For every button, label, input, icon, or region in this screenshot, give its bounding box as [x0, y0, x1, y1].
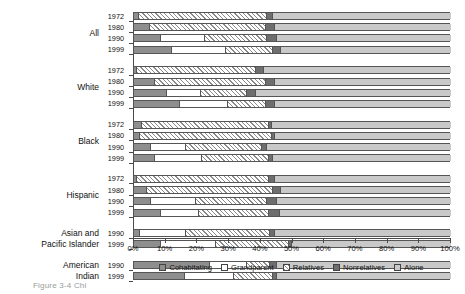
legend-item-relatives: Relatives: [283, 263, 324, 272]
y-axis-group-label: White: [0, 82, 99, 93]
bar-segment-cohabitating: [134, 24, 150, 30]
y-axis-tick: [129, 140, 133, 141]
x-axis-tick-label: 70%: [338, 244, 372, 253]
group-label-line: Indian: [76, 271, 99, 281]
y-axis-year-label: 1999: [102, 273, 124, 281]
legend-label: Alone: [404, 263, 423, 272]
y-axis-tick: [129, 21, 133, 22]
y-axis-group-label: Asian andPacific Islander: [0, 228, 99, 249]
legend-swatch-relatives: [283, 264, 290, 271]
bar-segment-nonrelatives: [273, 187, 281, 193]
group-label-line: Asian and: [61, 228, 99, 238]
legend-item-grandparent: Grandparent: [221, 263, 274, 272]
bar-segment-alone: [267, 144, 451, 150]
legend-label: Cohabitating: [169, 263, 212, 272]
y-axis-year-label: 1980: [102, 78, 124, 86]
x-axis-tick-label: 100%: [433, 244, 465, 253]
bar-segment-relatives: [228, 101, 266, 107]
bar-segment-nonrelatives: [266, 79, 276, 85]
x-axis-tick: [260, 239, 261, 243]
bar-segment-cohabitating: [134, 198, 151, 204]
y-axis-tick: [129, 97, 133, 98]
y-axis-tick: [129, 152, 133, 153]
bar-segment-nonrelatives: [256, 67, 264, 73]
x-axis-tick: [165, 239, 166, 243]
x-axis-tick: [387, 239, 388, 243]
legend-swatch-cohabitating: [159, 264, 166, 271]
bar-segment-nonrelatives: [266, 24, 276, 30]
x-axis-tick-label: 10%: [148, 244, 182, 253]
bar-segment-cohabitating: [134, 144, 151, 150]
bar-segment-alone: [264, 67, 451, 73]
y-axis-group-label: Black: [0, 136, 99, 147]
y-axis-group-label: AmericanIndian: [0, 260, 99, 281]
bar-row: [133, 23, 450, 31]
bar-row: [133, 34, 450, 42]
bar-segment-nonrelatives: [269, 210, 280, 216]
y-axis-tick: [129, 129, 133, 130]
bar-segment-grandparent: [167, 90, 200, 96]
x-axis-tick: [418, 239, 419, 243]
bar-segment-nonrelatives: [267, 35, 277, 41]
y-axis-year-label: 1999: [102, 209, 124, 217]
group-label-line: Hispanic: [66, 190, 99, 200]
bar-segment-grandparent: [161, 35, 205, 41]
bar-segment-relatives: [137, 67, 256, 73]
bar-segment-nonrelatives: [266, 101, 276, 107]
legend-label: Relatives: [293, 263, 324, 272]
bar-segment-alone: [277, 35, 451, 41]
bar-row: [133, 143, 450, 151]
chart-legend: CohabitatingGrandparentRelativesNonrelat…: [129, 261, 454, 273]
bar-segment-grandparent: [140, 230, 186, 236]
bar-segment-relatives: [202, 155, 269, 161]
y-axis-year-label: 1990: [102, 198, 124, 206]
bar-segment-nonrelatives: [267, 198, 277, 204]
y-axis-tick: [129, 163, 133, 164]
legend-label: Grandparent: [231, 263, 274, 272]
x-axis-tick-label: 20%: [179, 244, 213, 253]
x-axis-tick: [292, 239, 293, 243]
bar-segment-alone: [273, 13, 451, 19]
y-axis-group-label: Hispanic: [0, 190, 99, 201]
bar-segment-grandparent: [151, 198, 195, 204]
group-label-line: Black: [78, 136, 99, 146]
bar-segment-cohabitating: [134, 122, 142, 128]
legend-swatch-grandparent: [221, 264, 228, 271]
y-axis-year-label: 1972: [102, 13, 124, 21]
bar-segment-relatives: [199, 210, 269, 216]
y-axis-group-label: All: [0, 28, 99, 39]
y-axis-year-label: 1972: [102, 175, 124, 183]
bar-segment-alone: [277, 273, 451, 279]
x-axis-tick: [355, 239, 356, 243]
bar-row: [133, 209, 450, 217]
bar-segment-alone: [281, 47, 451, 53]
bar-segment-relatives: [234, 273, 274, 279]
bar-segment-grandparent: [161, 210, 199, 216]
bar-segment-alone: [281, 187, 451, 193]
bar-segment-alone: [275, 101, 451, 107]
bar-segment-relatives: [186, 230, 270, 236]
bar-segment-alone: [275, 230, 451, 236]
bar-row: [133, 66, 450, 74]
x-axis-tick-label: 80%: [370, 244, 404, 253]
bar-row: [133, 197, 450, 205]
bar-segment-alone: [256, 90, 451, 96]
y-axis-year-label: 1990: [102, 35, 124, 43]
bar-row: [133, 175, 450, 183]
legend-item-nonrelatives: Nonrelatives: [333, 263, 385, 272]
y-axis-year-label: 1972: [102, 67, 124, 75]
bar-row: [133, 229, 450, 237]
bar-segment-nonrelatives: [273, 47, 281, 53]
legend-item-cohabitating: Cohabitating: [159, 263, 212, 272]
bar-segment-cohabitating: [134, 187, 147, 193]
bar-segment-alone: [273, 155, 451, 161]
legend-label: Nonrelatives: [343, 263, 385, 272]
bar-segment-cohabitating: [134, 210, 161, 216]
bar-segment-alone: [275, 79, 451, 85]
legend-swatch-nonrelatives: [333, 264, 340, 271]
bar-segment-alone: [275, 133, 451, 139]
x-axis-tick: [133, 239, 134, 243]
bar-row: [133, 154, 450, 162]
bar-segment-relatives: [186, 144, 262, 150]
y-axis-tick: [129, 195, 133, 196]
